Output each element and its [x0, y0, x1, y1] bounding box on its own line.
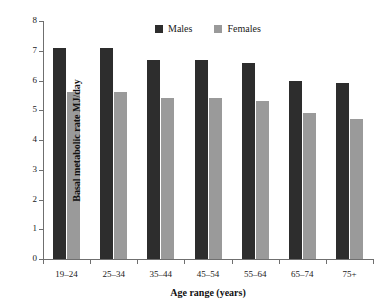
bar-males-75+	[336, 83, 349, 259]
x-axis-tick	[279, 259, 280, 264]
x-axis-tick-label: 75+	[326, 269, 373, 279]
bar-females-35–44	[161, 98, 174, 259]
x-axis-tick	[137, 259, 138, 264]
x-axis-tick	[232, 259, 233, 264]
x-axis-tick-label: 65–74	[279, 269, 326, 279]
x-axis-title-text: Age range (years)	[170, 287, 246, 298]
bar-males-45–54	[195, 60, 208, 259]
x-axis-tick	[184, 259, 185, 264]
bar-males-55–64	[242, 63, 255, 259]
bar-females-55–64	[256, 101, 269, 259]
x-axis-tick	[43, 259, 44, 264]
plot-area: 012345678 19–2425–3435–4445–5455–6465–74…	[43, 21, 373, 259]
bar-chart: Males Females 012345678 19–2425–3435–444…	[0, 0, 386, 303]
x-axis-tick	[90, 259, 91, 264]
x-axis-tick	[373, 259, 374, 264]
x-axis-tick-label: 19–24	[43, 269, 90, 279]
y-axis-title-text: Basal metabolic rate MJ/day	[71, 79, 82, 201]
bar-females-75+	[350, 119, 363, 259]
x-axis-tick-label: 45–54	[184, 269, 231, 279]
bar-males-65–74	[289, 81, 302, 260]
y-axis-title: Basal metabolic rate MJ/day	[15, 21, 137, 259]
x-axis-title: Age range (years)	[43, 287, 373, 298]
bar-females-65–74	[303, 113, 316, 259]
x-axis-tick-label: 35–44	[137, 269, 184, 279]
x-axis-tick	[326, 259, 327, 264]
x-axis-line	[43, 259, 373, 260]
bar-females-45–54	[209, 98, 222, 259]
bar-males-35–44	[147, 60, 160, 259]
x-axis-tick-label: 25–34	[90, 269, 137, 279]
x-axis-tick-label: 55–64	[232, 269, 279, 279]
